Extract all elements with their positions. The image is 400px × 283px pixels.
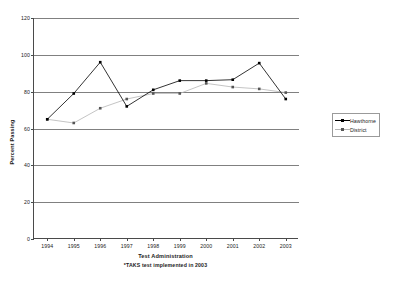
data-point-marker[interactable] (152, 89, 155, 92)
legend-label-district: District (350, 127, 367, 133)
chart-legend: Hawthorne District (332, 113, 380, 137)
data-point-marker[interactable] (72, 122, 75, 125)
y-tick-label: 120 (21, 15, 30, 21)
data-point-marker[interactable] (284, 98, 287, 101)
plot-area: 020406080100120 199419951996199719981999… (33, 18, 298, 239)
data-point-marker[interactable] (152, 92, 155, 95)
x-tick-label: 1994 (41, 243, 53, 249)
x-tick-label: 1999 (174, 243, 186, 249)
y-tick-label: 20 (24, 199, 30, 205)
legend-marker-icon-district (335, 125, 350, 134)
data-point-marker[interactable] (231, 86, 234, 89)
data-point-marker[interactable] (125, 105, 128, 108)
x-axis-label: Test Administration (33, 253, 298, 259)
data-point-marker[interactable] (99, 61, 102, 64)
data-point-marker[interactable] (231, 78, 234, 81)
data-point-marker[interactable] (258, 88, 261, 91)
x-tick-label: 2003 (280, 243, 292, 249)
x-tick-label: 1997 (121, 243, 133, 249)
data-point-marker[interactable] (72, 92, 75, 95)
y-tick-mark (31, 239, 34, 240)
x-tick-label: 1995 (68, 243, 80, 249)
data-point-marker[interactable] (178, 92, 181, 95)
legend-item-district[interactable]: District (335, 125, 376, 134)
legend-label-hawthorne: Hawthorne (350, 118, 376, 124)
data-point-marker[interactable] (46, 118, 49, 121)
y-tick-label: 0 (27, 236, 30, 242)
y-tick-label: 80 (24, 89, 30, 95)
x-tick-label: 2002 (253, 243, 265, 249)
data-series-layer (34, 18, 299, 239)
data-point-marker[interactable] (284, 91, 287, 94)
y-tick-label: 60 (24, 126, 30, 132)
chart-figure: Percent Passing 020406080100120 19941995… (0, 0, 400, 283)
x-tick-label: 1996 (94, 243, 106, 249)
series-line-hawthorne (47, 62, 286, 119)
data-point-marker[interactable] (99, 107, 102, 110)
legend-item-hawthorne[interactable]: Hawthorne (335, 116, 376, 125)
data-point-marker[interactable] (178, 79, 181, 82)
data-point-marker[interactable] (205, 82, 208, 85)
y-tick-label: 100 (21, 52, 30, 58)
data-point-marker[interactable] (125, 98, 128, 101)
x-tick-label: 2001 (227, 243, 239, 249)
legend-marker-icon-hawthorne (335, 116, 350, 125)
y-tick-label: 40 (24, 162, 30, 168)
data-point-marker[interactable] (205, 79, 208, 82)
x-tick-label: 1998 (147, 243, 159, 249)
x-tick-label: 2000 (200, 243, 212, 249)
x-axis-footnote: *TAKS test implemented in 2003 (33, 262, 298, 268)
data-point-marker[interactable] (258, 62, 261, 65)
y-axis-label: Percent Passing (9, 119, 15, 164)
series-line-district (47, 83, 286, 123)
